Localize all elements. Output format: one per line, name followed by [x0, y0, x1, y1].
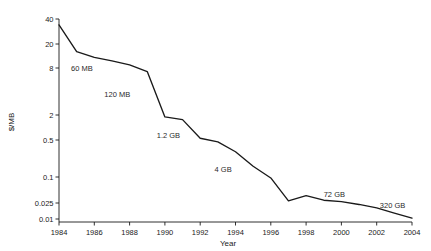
y-tick-label: 2	[49, 111, 53, 120]
line-chart: 4020820.50.10.0250.01 198419861988199019…	[0, 0, 431, 251]
data-annotation-label: 72 GB	[324, 190, 345, 199]
data-annotation-label: 320 GB	[380, 201, 405, 210]
data-annotation-label: 4 GB	[215, 165, 232, 174]
data-series-group	[59, 25, 412, 218]
data-line	[59, 25, 412, 218]
x-tick-label: 1998	[298, 228, 315, 237]
annotation-group: 60 MB120 MB1.2 GB4 GB72 GB320 GB	[71, 64, 405, 211]
x-tick-label: 1996	[262, 228, 279, 237]
y-tick-label: 40	[45, 15, 53, 24]
x-axis: 1984198619881990199219941996199820002002…	[51, 222, 421, 237]
x-tick-label: 1984	[51, 228, 68, 237]
y-axis: 4020820.50.10.0250.01	[35, 15, 59, 224]
x-tick-label: 1986	[86, 228, 103, 237]
data-annotation-label: 1.2 GB	[157, 131, 180, 140]
x-tick-label: 2002	[368, 228, 385, 237]
x-tick-label: 2004	[404, 228, 421, 237]
y-tick-label: 0.01	[39, 215, 54, 224]
data-annotation-label: 60 MB	[71, 64, 93, 73]
y-tick-label: 20	[45, 40, 53, 49]
data-annotation-label: 120 MB	[104, 90, 130, 99]
y-tick-label: 0.1	[43, 173, 53, 182]
x-tick-label: 1992	[192, 228, 209, 237]
y-tick-label: 8	[49, 64, 53, 73]
chart-container: 4020820.50.10.0250.01 198419861988199019…	[0, 0, 431, 251]
x-axis-title: Year	[220, 239, 237, 248]
y-axis-title: $/MB	[7, 113, 16, 132]
x-tick-label: 1988	[121, 228, 138, 237]
y-tick-label: 0.025	[35, 199, 54, 208]
x-tick-label: 2000	[333, 228, 350, 237]
y-tick-label: 0.5	[43, 136, 53, 145]
x-tick-label: 1994	[227, 228, 244, 237]
x-tick-label: 1990	[157, 228, 174, 237]
